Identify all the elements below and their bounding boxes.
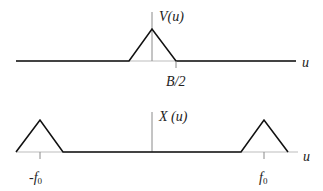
neg-f0-sub: 0 <box>38 176 43 186</box>
top-function-label: V(u) <box>159 9 184 25</box>
spectrum-diagram: V(u) u B/2 X (u) u -f0 f0 <box>0 0 323 191</box>
f0-sub: 0 <box>263 176 268 186</box>
bottom-function-label: X (u) <box>158 109 188 125</box>
bottom-tick-label-neg-f0: -f0 <box>29 170 43 186</box>
top-axis-label: u <box>302 55 309 70</box>
top-tick-label: B/2 <box>166 74 185 89</box>
bottom-axis-label: u <box>303 149 310 164</box>
top-plot: V(u) u B/2 <box>16 9 309 89</box>
bottom-tick-label-f0: f0 <box>259 170 268 186</box>
bottom-plot: X (u) u -f0 f0 <box>16 109 310 186</box>
top-triangle-curve <box>16 29 296 61</box>
